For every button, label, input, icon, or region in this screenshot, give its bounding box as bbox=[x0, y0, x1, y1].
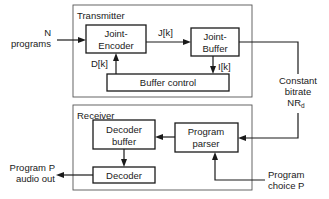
transmitter-title: Transmitter bbox=[77, 10, 125, 21]
decoder-block: Decoder bbox=[93, 167, 155, 183]
arrow-head-icon bbox=[56, 172, 64, 178]
svg-text:parser: parser bbox=[193, 138, 220, 149]
svg-text:programs: programs bbox=[11, 38, 51, 49]
svg-text:I[k]: I[k] bbox=[218, 61, 231, 72]
svg-text:Program: Program bbox=[188, 126, 225, 137]
program-parser-block: Program parser bbox=[175, 123, 238, 152]
svg-text:Decoder: Decoder bbox=[106, 124, 142, 135]
receiver-title: Receiver bbox=[77, 110, 115, 121]
channel-label: Constant bitrate NRd bbox=[279, 75, 317, 109]
svg-text:D[k]: D[k] bbox=[91, 58, 108, 69]
svg-text:audio out: audio out bbox=[16, 173, 55, 184]
svg-text:Buffer control: Buffer control bbox=[140, 77, 196, 88]
svg-text:Decoder: Decoder bbox=[106, 170, 142, 181]
svg-text:Encoder: Encoder bbox=[98, 40, 133, 51]
joint-buffer-block: Joint- Buffer bbox=[191, 28, 239, 56]
decoder-buffer-block: Decoder buffer bbox=[93, 120, 155, 149]
svg-text:N: N bbox=[44, 27, 51, 38]
transmitter-receiver-diagram: Transmitter Receiver Joint- Encoder Join… bbox=[0, 0, 329, 199]
buffer-control-block: Buffer control bbox=[107, 74, 229, 91]
svg-text:Buffer: Buffer bbox=[202, 43, 227, 54]
svg-text:Program: Program bbox=[268, 169, 305, 180]
svg-text:choice P: choice P bbox=[268, 180, 304, 191]
svg-text:Joint-: Joint- bbox=[203, 31, 226, 42]
svg-text:Joint-: Joint- bbox=[104, 28, 127, 39]
svg-text:J[k]: J[k] bbox=[158, 27, 173, 38]
svg-text:buffer: buffer bbox=[112, 136, 136, 147]
svg-text:Constant: Constant bbox=[279, 75, 317, 86]
svg-text:bitrate: bitrate bbox=[285, 86, 311, 97]
svg-text:NRd: NRd bbox=[287, 97, 305, 109]
joint-encoder-block: Joint- Encoder bbox=[86, 25, 146, 53]
svg-text:Program P: Program P bbox=[10, 162, 55, 173]
